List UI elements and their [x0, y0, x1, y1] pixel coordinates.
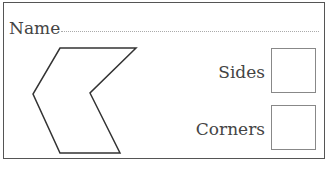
corners-answer-box[interactable]: [271, 105, 316, 150]
sides-label: Sides: [218, 62, 265, 82]
sides-answer-box[interactable]: [271, 48, 316, 93]
corners-label: Corners: [196, 119, 265, 139]
worksheet-card: Name Sides Corners: [3, 2, 325, 159]
